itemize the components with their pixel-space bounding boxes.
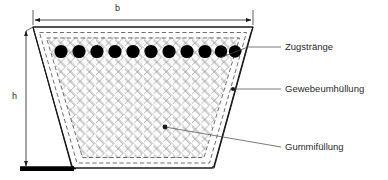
anchor-dot-gummifuellung bbox=[163, 125, 168, 130]
dimension-label-h: h bbox=[12, 92, 17, 101]
callout-label-gummifuellung: Gummifüllung bbox=[285, 142, 344, 152]
dimension-b bbox=[33, 10, 253, 25]
dimension-label-b: b bbox=[115, 4, 120, 13]
anchor-dot-gewebeumhuellung bbox=[231, 87, 235, 91]
callout-label-gewebeumhuellung: Gewebeumhüllung bbox=[285, 84, 364, 94]
callout-label-zugstraenge: Zugstränge bbox=[285, 42, 333, 52]
datum-bar bbox=[20, 167, 76, 172]
vbelt-cross-section-figure: b h Zugstränge Gewebeumhüllung Gummifüll… bbox=[0, 0, 388, 180]
